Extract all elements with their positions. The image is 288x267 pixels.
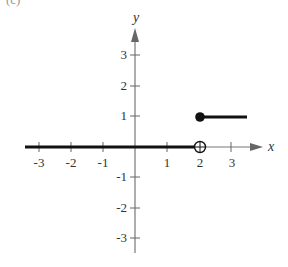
panel-label: (c) bbox=[6, 0, 20, 7]
x-tick-label: -3 bbox=[34, 155, 45, 170]
x-tick-label: -2 bbox=[66, 155, 77, 170]
x-axis: x -3 -2 -1 1 2 3 bbox=[25, 139, 275, 170]
x-tick-label: 1 bbox=[164, 155, 171, 170]
y-tick-label: -2 bbox=[116, 200, 127, 215]
y-tick-label: -3 bbox=[116, 230, 127, 245]
x-axis-arrow-icon bbox=[250, 143, 263, 151]
y-axis-label: y bbox=[131, 10, 140, 25]
y-axis: y 3 2 1 -1 -2 -3 bbox=[116, 10, 140, 253]
step-function-graph: (c) x -3 -2 -1 1 2 3 y bbox=[0, 0, 288, 267]
y-tick-label: 3 bbox=[121, 47, 128, 62]
y-tick-label: 1 bbox=[121, 108, 128, 123]
open-endpoint-icon bbox=[195, 142, 206, 153]
x-tick-label: 2 bbox=[197, 155, 204, 170]
y-tick-label: -1 bbox=[116, 169, 127, 184]
y-axis-arrow-icon bbox=[131, 28, 139, 42]
x-tick-label: 3 bbox=[229, 155, 236, 170]
y-tick-label: 2 bbox=[121, 78, 128, 93]
x-axis-label: x bbox=[267, 139, 275, 154]
x-tick-label: -1 bbox=[98, 155, 109, 170]
closed-endpoint-icon bbox=[195, 112, 205, 122]
